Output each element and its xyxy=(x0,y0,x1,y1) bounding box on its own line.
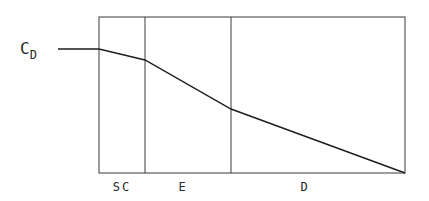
region-label-e: E xyxy=(178,180,185,194)
cd-diagram: CD SC E D xyxy=(0,0,429,201)
y-axis-label: CD xyxy=(20,39,37,62)
region-label-d: D xyxy=(300,180,307,194)
region-label-sc: SC xyxy=(113,180,131,194)
